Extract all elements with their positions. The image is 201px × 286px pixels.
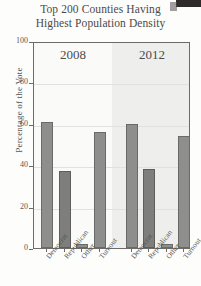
chart-title-line-2: Highest Population Density: [0, 16, 201, 30]
gridline: [34, 209, 189, 210]
chart-page: Top 200 Counties Having Highest Populati…: [0, 0, 201, 286]
gridline: [34, 84, 189, 85]
y-axis-label: Percentage of the Vote: [14, 40, 24, 180]
chart-title: Top 200 Counties Having Highest Populati…: [0, 2, 201, 30]
y-axis-tick-label: 40: [20, 160, 28, 169]
bar: [126, 124, 138, 248]
y-axis-tick: 80: [0, 83, 33, 84]
panel-header-2008: 2008: [34, 47, 112, 63]
y-axis-tick: 0: [0, 249, 33, 250]
y-axis-tick-label: 60: [20, 119, 28, 128]
bar: [178, 136, 190, 248]
gridline: [34, 167, 189, 168]
y-axis-tick: 40: [0, 166, 33, 167]
x-axis-labels: DemocratRepublicanOtherTurnoutDemocratRe…: [33, 249, 190, 286]
y-axis-tick-label: 20: [20, 202, 28, 211]
y-axis-tick: 20: [0, 208, 33, 209]
chart-title-line-1: Top 200 Counties Having: [0, 2, 201, 16]
gridline: [34, 126, 189, 127]
panel-header-2012: 2012: [113, 47, 190, 63]
bar: [94, 132, 106, 248]
bar: [41, 122, 53, 248]
plot-area: 2008 2012: [33, 42, 190, 249]
y-axis-tick: 60: [0, 125, 33, 126]
y-axis-tick: 100: [0, 42, 33, 43]
y-axis-tick-label: 100: [16, 36, 28, 45]
y-axis-tick-label: 0: [24, 243, 28, 252]
y-axis-tick-label: 80: [20, 77, 28, 86]
